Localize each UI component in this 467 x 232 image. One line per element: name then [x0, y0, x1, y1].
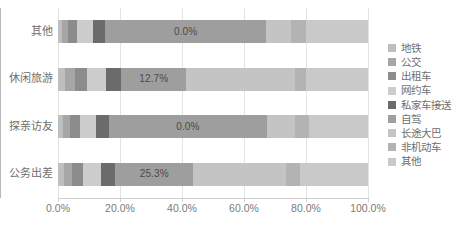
bar-segment[interactable] [87, 68, 106, 91]
x-tick-mark [120, 198, 121, 202]
bar-segment[interactable] [72, 163, 83, 186]
stacked-bar[interactable]: 0.0% [58, 115, 368, 138]
legend-item[interactable]: 自驾 [388, 112, 467, 126]
legend-swatch-icon [388, 58, 396, 66]
bar-segment[interactable] [93, 20, 105, 43]
bar-row: 0.0% [58, 115, 368, 138]
bar-segment[interactable] [106, 68, 122, 91]
bar-segment[interactable] [186, 68, 295, 91]
bar-segment[interactable]: 25.3% [115, 163, 193, 186]
legend-label: 私家车接送 [401, 100, 451, 111]
legend-swatch-icon [388, 143, 396, 151]
legend-item[interactable]: 长途大巴 [388, 126, 467, 140]
bar-segment[interactable] [58, 68, 65, 91]
bar-row: 25.3% [58, 163, 368, 186]
x-tick-mark [306, 198, 307, 202]
legend-item[interactable]: 其他 [388, 155, 467, 169]
bar-segment[interactable]: 12.7% [121, 68, 186, 91]
legend-swatch-icon [388, 44, 396, 52]
bar-row: 0.0% [58, 20, 368, 43]
x-tick-label: 20.0% [105, 203, 135, 214]
x-tick-mark [244, 198, 245, 202]
x-tick-label: 0.0% [46, 203, 70, 214]
bar-segment[interactable]: 0.0% [109, 115, 267, 138]
x-tick-mark [368, 198, 369, 202]
legend-label: 网约车 [401, 85, 431, 96]
legend-label: 出租车 [401, 71, 431, 82]
bar-segment[interactable] [70, 115, 80, 138]
legend-swatch-icon [388, 87, 396, 95]
bar-segment[interactable]: 0.0% [105, 20, 266, 43]
bar-segment[interactable] [309, 115, 368, 138]
legend-swatch-icon [388, 101, 396, 109]
legend-label: 长途大巴 [401, 128, 441, 139]
x-axis-line [58, 198, 369, 199]
data-label: 25.3% [140, 169, 169, 179]
x-tick-mark [58, 198, 59, 202]
x-tick-label: 40.0% [167, 203, 197, 214]
x-tick-label: 60.0% [229, 203, 259, 214]
bar-segment[interactable] [65, 68, 74, 91]
bar-segment[interactable] [68, 20, 77, 43]
legend-item[interactable]: 公交 [388, 55, 467, 69]
data-label: 0.0% [174, 27, 197, 37]
legend-swatch-icon [388, 129, 396, 137]
legend-label: 公交 [401, 57, 421, 68]
category-label: 其他 [1, 26, 53, 37]
bar-segment[interactable] [101, 163, 115, 186]
legend-item[interactable]: 非机动车 [388, 140, 467, 154]
legend-item[interactable]: 网约车 [388, 84, 467, 98]
legend-item[interactable]: 地铁 [388, 41, 467, 55]
stacked-bar[interactable]: 25.3% [58, 163, 368, 186]
bar-segment[interactable] [295, 115, 309, 138]
legend-swatch-icon [388, 72, 396, 80]
category-label: 探亲访友 [1, 121, 53, 132]
bar-segment[interactable] [77, 20, 93, 43]
legend-swatch-icon [388, 115, 396, 123]
bar-segment[interactable] [96, 115, 109, 138]
chart-legend: 地铁公交出租车网约车私家车接送自驾长途大巴非机动车其他 [388, 41, 467, 169]
bar-segment[interactable] [75, 68, 87, 91]
x-tick-mark [182, 198, 183, 202]
gridline-1000 [368, 8, 369, 198]
bar-segment[interactable] [300, 163, 368, 186]
x-axis-tick-labels: 0.0%20.0%40.0%60.0%80.0%100.0% [58, 203, 369, 223]
bar-segment[interactable] [63, 115, 70, 138]
stacked-bar[interactable]: 0.0% [58, 20, 368, 43]
bar-segment[interactable] [266, 20, 291, 43]
bar-segment[interactable] [295, 68, 306, 91]
legend-label: 自驾 [401, 114, 421, 125]
x-tick-label: 100.0% [350, 203, 386, 214]
legend-item[interactable]: 私家车接送 [388, 98, 467, 112]
category-label: 休闲旅游 [1, 73, 53, 84]
legend-swatch-icon [388, 158, 396, 166]
bar-segment[interactable] [306, 20, 368, 43]
legend-label: 其他 [401, 156, 421, 167]
bar-segment[interactable] [267, 115, 295, 138]
legend-item[interactable]: 出租车 [388, 69, 467, 83]
stacked-bar[interactable]: 12.7% [58, 68, 368, 91]
x-tick-label: 80.0% [291, 203, 321, 214]
bar-segment[interactable] [64, 163, 72, 186]
bar-segment[interactable] [291, 20, 306, 43]
data-label: 0.0% [176, 122, 199, 132]
data-label: 12.7% [139, 74, 168, 84]
plot-area: 0.0%12.7%0.0%25.3% [58, 8, 368, 198]
stacked-bar-chart: 0.0%12.7%0.0%25.3% 其他休闲旅游探亲访友公务出差 0.0%20… [0, 0, 467, 232]
bar-segment[interactable] [80, 115, 96, 138]
bar-segment[interactable] [286, 163, 299, 186]
bar-segment[interactable] [193, 163, 286, 186]
bar-segment[interactable] [306, 68, 368, 91]
legend-label: 非机动车 [401, 142, 441, 153]
bar-segment[interactable] [83, 163, 100, 186]
category-label: 公务出差 [1, 168, 53, 179]
category-axis-labels: 其他休闲旅游探亲访友公务出差 [0, 8, 53, 198]
bar-row: 12.7% [58, 68, 368, 91]
legend-label: 地铁 [401, 43, 421, 54]
